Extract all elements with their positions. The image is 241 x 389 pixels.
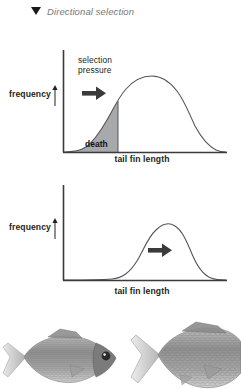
y-axis-label: frequency <box>9 222 51 232</box>
y-axis-label: frequency <box>9 89 51 99</box>
fish-tail-fin <box>131 335 160 383</box>
fish-large-illustration <box>130 321 241 389</box>
arrow-right-icon <box>148 244 172 257</box>
selection-pressure-line-2: pressure <box>78 65 112 75</box>
x-axis-label: tail fin length <box>62 286 222 296</box>
x-axis-label: tail fin length <box>62 154 222 164</box>
fish-photo-strip <box>0 306 241 389</box>
fish-eye-highlight <box>103 353 106 356</box>
selection-pressure-annotation: selection pressure <box>78 55 112 75</box>
arrow-up-icon <box>52 218 57 239</box>
fish-photo-small <box>0 327 118 389</box>
figure-header: Directional selection <box>0 0 241 22</box>
fish-eye <box>102 352 111 361</box>
fish-dorsal-fin <box>48 329 82 338</box>
distribution-curve-after <box>64 224 226 280</box>
fish-dorsal-fin <box>182 322 226 333</box>
chart-after-selection: frequency tail fin length <box>0 176 241 306</box>
fish-scales <box>160 329 241 387</box>
figure-title: Directional selection <box>47 6 134 17</box>
arrow-up-icon <box>52 85 57 106</box>
fish-small-illustration <box>0 327 118 389</box>
selection-pressure-line-1: selection <box>78 55 112 65</box>
arrow-right-icon <box>82 87 106 100</box>
fish-tail-fin <box>3 343 26 377</box>
death-region-label: death <box>85 139 108 149</box>
chart-before-selection: frequency selection pressure death tail … <box>0 28 241 176</box>
fish-photo-large <box>130 321 241 389</box>
triangle-down-icon <box>31 7 41 15</box>
